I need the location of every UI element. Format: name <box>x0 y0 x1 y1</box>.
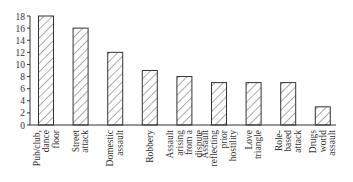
svg-text:dance: dance <box>41 130 51 152</box>
category-label: Role-basedattack <box>274 130 303 153</box>
category-label: Robbery <box>145 130 155 163</box>
bar <box>177 77 192 125</box>
svg-text:from a: from a <box>184 129 194 155</box>
svg-text:prior: prior <box>219 129 229 148</box>
bar <box>39 16 54 125</box>
category-labels: Pub/club,dancefloorStreetattackDomestica… <box>32 129 338 166</box>
svg-text:assault: assault <box>115 130 125 156</box>
y-tick-label: 4 <box>20 96 25 106</box>
y-tick-label: 12 <box>16 48 26 58</box>
svg-text:hostility: hostility <box>228 130 238 161</box>
svg-text:assault: assault <box>327 130 337 156</box>
y-tick-label: 10 <box>16 60 26 70</box>
bar <box>108 52 123 125</box>
bar <box>212 83 227 125</box>
y-tick-label: 8 <box>20 72 25 82</box>
bar <box>73 28 88 125</box>
y-axis: 024681012141618 <box>16 12 31 131</box>
y-tick-label: 0 <box>20 121 25 131</box>
svg-text:Assault: Assault <box>200 130 210 159</box>
svg-text:Street: Street <box>71 130 81 153</box>
svg-text:Assault: Assault <box>165 130 175 159</box>
bars <box>39 16 331 125</box>
svg-text:Pub/club,: Pub/club, <box>32 130 42 166</box>
svg-text:attack: attack <box>293 130 303 153</box>
svg-text:reflecting: reflecting <box>209 130 219 167</box>
category-label: Drugsworldassault <box>308 130 337 156</box>
y-tick-label: 2 <box>20 108 25 118</box>
y-tick-label: 18 <box>16 12 26 22</box>
svg-text:world: world <box>318 130 328 152</box>
svg-text:Domestic: Domestic <box>105 130 115 166</box>
svg-text:based: based <box>283 130 293 152</box>
category-label: Lovetriangle <box>244 130 264 159</box>
category-label: Assaultarisingfrom adispute <box>165 129 204 158</box>
svg-text:Role-: Role- <box>274 130 284 151</box>
bar <box>246 83 261 125</box>
svg-text:Love: Love <box>244 130 254 150</box>
svg-text:arising: arising <box>175 130 185 156</box>
bar <box>315 107 330 125</box>
y-tick-label: 14 <box>16 36 26 46</box>
svg-text:floor: floor <box>51 129 61 148</box>
category-label: Streetattack <box>71 130 91 153</box>
bar <box>142 71 157 126</box>
svg-text:Robbery: Robbery <box>145 130 155 163</box>
svg-text:Drugs: Drugs <box>308 130 318 154</box>
y-tick-label: 6 <box>20 84 25 94</box>
svg-text:triangle: triangle <box>253 130 263 159</box>
y-tick-label: 16 <box>16 24 26 34</box>
bar-chart: 024681012141618 Pub/club,dancefloorStree… <box>0 0 353 182</box>
category-label: Pub/club,dancefloor <box>32 129 61 166</box>
category-label: Domesticassault <box>105 130 125 167</box>
category-label: Assaultreflectingpriorhostility <box>200 129 239 166</box>
svg-text:attack: attack <box>80 130 90 153</box>
bar <box>281 83 296 125</box>
